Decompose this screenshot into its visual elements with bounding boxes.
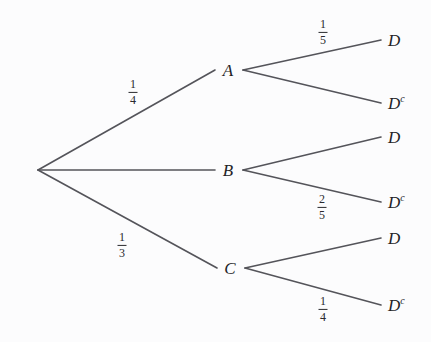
edge-label-root-to-a-numerator: 1 (129, 78, 137, 92)
leaf-b-dc-base: D (388, 193, 400, 212)
edge-label-root-to-c-numerator: 1 (118, 231, 126, 245)
branch-a-to-d (243, 40, 381, 70)
edge-label-b-to-dc-numerator: 2 (318, 193, 326, 207)
leaf-c-d-base: D (388, 229, 400, 248)
leaf-a-dc-superscript: c (400, 93, 404, 104)
edge-label-a-to-d-denominator: 5 (319, 33, 327, 47)
leaf-c-dc-superscript: c (400, 295, 404, 306)
edge-label-root-to-c: 1 3 (118, 231, 127, 259)
branch-a-to-dc (243, 70, 381, 103)
leaf-c-dc-base: D (388, 296, 400, 315)
branch-c-to-d (245, 238, 381, 268)
leaf-c-d: D (388, 230, 400, 247)
node-b: B (223, 162, 233, 179)
edge-label-b-to-dc: 2 5 (318, 193, 327, 221)
branch-b-to-d (243, 137, 381, 170)
leaf-c-dc: Dc (388, 297, 405, 314)
leaf-a-dc: Dc (388, 95, 405, 112)
edge-label-root-to-a: 1 4 (129, 78, 138, 106)
edge-label-root-to-c-denominator: 3 (118, 246, 126, 260)
leaf-b-d-base: D (388, 128, 400, 147)
branch-root-to-a (38, 70, 215, 170)
edge-label-b-to-dc-denominator: 5 (318, 208, 326, 222)
node-a: A (223, 62, 233, 79)
node-c: C (224, 260, 235, 277)
branch-b-to-dc (243, 170, 381, 202)
edge-label-c-to-dc: 1 4 (319, 295, 328, 323)
edge-label-a-to-d-numerator: 1 (319, 18, 327, 32)
edge-label-a-to-d: 1 5 (319, 18, 328, 46)
branch-root-to-c (38, 170, 217, 268)
leaf-a-dc-base: D (388, 94, 400, 113)
leaf-b-dc-superscript: c (400, 192, 404, 203)
edge-label-c-to-dc-denominator: 4 (319, 310, 327, 324)
edge-label-root-to-a-denominator: 4 (129, 93, 137, 107)
tree-branch-lines (0, 0, 431, 342)
leaf-b-dc: Dc (388, 194, 405, 211)
branch-c-to-dc (245, 268, 381, 305)
edge-label-c-to-dc-numerator: 1 (319, 295, 327, 309)
leaf-a-d-base: D (388, 31, 400, 50)
leaf-b-d: D (388, 129, 400, 146)
leaf-a-d: D (388, 32, 400, 49)
probability-tree-diagram: A B C D Dc D Dc D Dc 1 4 1 3 1 5 2 5 1 (0, 0, 431, 342)
